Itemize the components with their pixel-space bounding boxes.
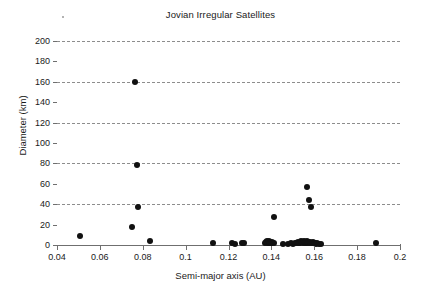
grid-line — [57, 82, 400, 83]
y-axis-tick-label: 40 — [40, 199, 50, 209]
x-axis-tick-label: 0.06 — [91, 252, 109, 262]
x-axis-tick-label: 0.14 — [263, 252, 281, 262]
x-axis-tick-mark — [229, 246, 230, 250]
grid-line — [57, 204, 400, 205]
x-axis-tick-mark — [100, 246, 101, 250]
data-point — [147, 238, 153, 244]
data-point — [318, 241, 324, 247]
data-point — [132, 79, 138, 85]
x-axis-tick-label: 0.12 — [220, 252, 238, 262]
x-axis-tick-label: 0.18 — [348, 252, 366, 262]
x-axis-tick-mark — [57, 246, 58, 250]
plot-background — [57, 41, 400, 245]
plot-area — [57, 41, 400, 245]
data-point — [210, 240, 216, 246]
y-axis-tick-label: 80 — [40, 158, 50, 168]
x-axis-tick-label: 0.2 — [394, 252, 407, 262]
x-axis-tick-mark — [271, 246, 272, 250]
y-axis-tick-label: 60 — [40, 179, 50, 189]
data-point — [129, 224, 135, 230]
chart-title: Jovian Irregular Satellites — [0, 9, 441, 20]
x-axis-tick-label: 0.04 — [48, 252, 66, 262]
y-axis-tick-label: 140 — [35, 97, 50, 107]
x-axis-tick-mark — [400, 246, 401, 250]
data-point — [373, 240, 379, 246]
y-axis-tick-label: 0 — [45, 240, 50, 250]
data-point — [135, 204, 141, 210]
y-axis-tick-label: 20 — [40, 220, 50, 230]
y-axis-tick-labels: 020406080100120140160180200 — [0, 0, 50, 296]
x-axis-tick-mark — [186, 246, 187, 250]
data-point — [134, 162, 140, 168]
y-axis-tick-label: 180 — [35, 56, 50, 66]
y-axis-tick-label: 160 — [35, 77, 50, 87]
stray-speck-artifact — [62, 16, 64, 18]
chart-figure: Jovian Irregular Satellites Diameter (km… — [0, 0, 441, 296]
x-axis-tick-label: 0.16 — [305, 252, 323, 262]
x-axis-tick-mark — [143, 246, 144, 250]
x-axis-label: Semi-major axis (AU) — [0, 270, 441, 281]
y-axis-tick-label: 120 — [35, 118, 50, 128]
data-point — [232, 241, 238, 247]
data-point — [304, 184, 310, 190]
data-point — [271, 214, 277, 220]
grid-line — [57, 123, 400, 124]
grid-line — [57, 163, 400, 164]
data-point — [306, 197, 312, 203]
x-axis-tick-label: 0.1 — [179, 252, 192, 262]
data-point — [77, 233, 83, 239]
x-axis-tick-mark — [357, 246, 358, 250]
x-axis-tick-mark — [314, 246, 315, 250]
y-axis-tick-label: 100 — [35, 138, 50, 148]
x-axis-tick-label: 0.08 — [134, 252, 152, 262]
data-point — [241, 240, 247, 246]
grid-line — [57, 41, 400, 42]
data-point — [308, 204, 314, 210]
y-axis-tick-label: 200 — [35, 36, 50, 46]
